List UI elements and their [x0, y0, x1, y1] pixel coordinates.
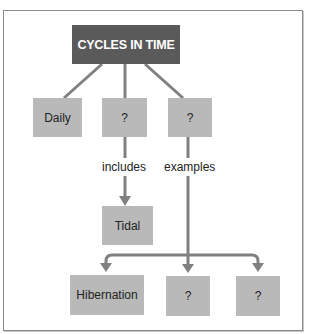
node-unknown-right: ?	[168, 98, 212, 137]
node-tidal: Tidal	[102, 206, 153, 245]
node-example-unknown-middle: ?	[166, 276, 210, 316]
arrowhead-examples-left	[100, 263, 112, 272]
node-label: Daily	[44, 111, 71, 125]
node-label: ?	[121, 111, 128, 125]
connector-title-daily	[64, 64, 102, 98]
node-hibernation: Hibernation	[70, 275, 144, 315]
node-unknown-middle: ?	[102, 98, 147, 137]
node-daily: Daily	[33, 98, 82, 137]
connector-examples-branch	[106, 255, 258, 266]
title-node: CYCLES IN TIME	[72, 25, 180, 64]
node-label: ?	[187, 111, 194, 125]
node-label: ?	[255, 289, 262, 303]
connector-title-right	[145, 64, 183, 98]
arrowhead-examples-right	[252, 263, 264, 272]
node-label: ?	[185, 289, 192, 303]
arrowhead-examples-middle	[182, 264, 194, 273]
title-text: CYCLES IN TIME	[77, 38, 174, 52]
arrowhead-includes	[119, 196, 131, 206]
link-label-examples: examples	[163, 160, 216, 174]
node-label: Hibernation	[76, 288, 137, 302]
link-label-includes: includes	[101, 160, 147, 174]
node-label: Tidal	[115, 219, 141, 233]
node-example-unknown-right: ?	[236, 276, 280, 316]
